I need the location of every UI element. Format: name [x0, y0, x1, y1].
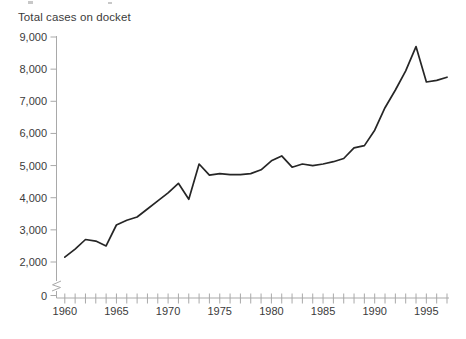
y-axis-tick-label: 9,000	[19, 31, 47, 43]
y-axis-tick-label: 2,000	[19, 256, 47, 268]
y-axis-tick-label: 6,000	[19, 127, 47, 139]
y-axis-tick-label: 5,000	[19, 160, 47, 172]
x-axis-tick-label: 1985	[311, 305, 335, 317]
x-axis-tick-label: 1975	[208, 305, 232, 317]
x-axis-tick-label: 1995	[414, 305, 438, 317]
y-axis-tick-label: 8,000	[19, 63, 47, 75]
data-line-total-cases	[65, 47, 447, 258]
x-axis-tick-label: 1965	[104, 305, 128, 317]
line-chart: 9,0008,0007,0006,0005,0004,0003,0002,000…	[0, 0, 466, 339]
x-axis-tick-label: 1990	[362, 305, 386, 317]
y-axis-tick-label: 4,000	[19, 192, 47, 204]
y-axis-break-mark	[52, 281, 61, 291]
figure: Total cases on docket 9,0008,0007,0006,0…	[0, 0, 466, 339]
y-axis-tick-label: 0	[41, 290, 47, 302]
x-axis-tick-label: 1960	[53, 305, 77, 317]
y-axis-tick-label: 3,000	[19, 224, 47, 236]
x-axis-tick-label: 1970	[156, 305, 180, 317]
y-axis-tick-label: 7,000	[19, 95, 47, 107]
x-axis-tick-label: 1980	[259, 305, 283, 317]
